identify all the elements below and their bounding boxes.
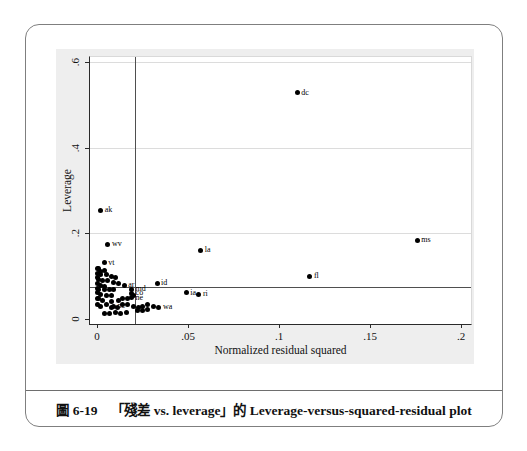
data-point-label: ak [105,206,113,214]
x-axis-tick [97,324,98,328]
cluster-point [104,272,109,277]
cluster-point [95,302,100,307]
data-point [98,208,103,213]
data-point [198,248,203,253]
cluster-point [111,287,116,292]
data-point [307,274,312,279]
cluster-point [102,311,107,316]
x-axis-tick [461,324,462,328]
cluster-point [151,304,156,309]
data-point-label: id [161,279,167,287]
cluster-point [111,280,116,285]
cluster-point [145,307,150,312]
data-point [415,238,420,243]
figure-caption: 圖 6-19 「殘差 vs. leverage」的 Leverage-versu… [26,391,502,427]
x-axis-title: Normalized residual squared [90,344,471,356]
data-point [184,290,189,295]
cluster-point [105,278,110,283]
cluster-point [100,278,105,283]
x-tick-label: .1 [259,330,299,342]
data-point-label: ne [136,294,144,302]
cluster-point [107,311,112,316]
data-point [111,304,116,309]
data-point-label: ri [203,290,208,298]
cluster-point [118,311,123,316]
data-point [295,90,300,95]
data-point-label: ia [190,289,196,297]
data-point-label: nc [117,302,125,310]
figure-caption-text: 「殘差 vs. leverage」的 Leverage-versus-squar… [111,399,471,419]
cluster-point [125,302,130,307]
data-point [102,260,107,265]
y-axis-tick [85,148,89,149]
cluster-point [109,293,114,298]
cluster-point [140,308,145,313]
cluster-point [109,299,114,304]
cluster-point [116,281,121,286]
cluster-point [124,310,129,315]
data-point [105,242,110,247]
figure-frame: Normalized residual squared Leverage 0.2… [25,24,503,427]
y-gridline [90,233,471,234]
y-tick-label: .4 [68,139,82,157]
y-axis-tick [85,62,89,63]
cluster-point [102,287,107,292]
data-point-label: ar [128,281,134,289]
y-tick-label: 0 [68,310,82,328]
x-tick-label: .2 [441,330,481,342]
x-tick-label: .05 [168,330,208,342]
horizontal-reference-line [90,287,471,288]
data-point [196,292,201,297]
data-point-label: ms [421,236,430,244]
data-point-label: fl [314,272,319,280]
y-tick-label: .6 [68,53,82,71]
x-tick-label: 0 [77,330,117,342]
cluster-point [104,293,109,298]
y-tick-label: .2 [68,224,82,242]
y-axis-tick [85,319,89,320]
data-point [156,305,161,310]
chart-background: Normalized residual squared Leverage 0.2… [56,49,474,364]
data-point [155,281,160,286]
cluster-point [113,310,118,315]
x-axis-tick [279,324,280,328]
data-point [129,295,134,300]
data-point-label: wa [163,303,172,311]
cluster-point [135,308,140,313]
x-axis-tick [188,324,189,328]
x-tick-label: .15 [350,330,390,342]
y-gridline [90,148,471,149]
figure-number: 圖 6-19 [56,399,97,419]
data-point-label: wv [112,240,122,248]
plot-area: Normalized residual squared Leverage 0.2… [89,56,472,325]
cluster-point [104,302,109,307]
data-point-label: dc [301,89,309,97]
x-axis-tick [370,324,371,328]
figure-page: Normalized residual squared Leverage 0.2… [0,0,527,451]
y-axis-tick [85,233,89,234]
data-point-label: vt [108,259,114,267]
data-point [122,283,127,288]
y-gridline [90,62,471,63]
data-point-label: la [205,246,211,254]
